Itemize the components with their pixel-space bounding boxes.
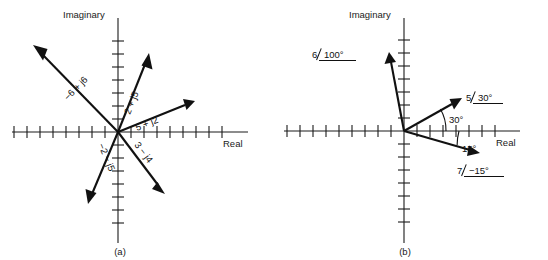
angle-annotation-15: 15°	[462, 143, 477, 154]
vector-label-3-minus-j4: 3 − j4	[132, 140, 155, 165]
vector-label-7-angle-minus15-angle: −15°	[469, 165, 489, 176]
vector-label-6-angle-100-magnitude: 6	[312, 49, 317, 60]
vector-minus2-minus-j5: −2 − j5	[86, 132, 119, 204]
arrowhead-5-plus-j2	[183, 99, 195, 110]
vector-label-5-angle-30-group: 5 30°	[466, 91, 503, 103]
figure-root: Imaginary Real −6 + j6 2 + j5 5 + j2 3 −…	[0, 0, 548, 260]
vector-5-angle-30: 5 30°	[404, 91, 503, 131]
vector-label-2-plus-j5: 2 + j5	[122, 90, 141, 116]
vector-label-5-angle-30-angle: 30°	[478, 92, 493, 103]
arrowhead-6-angle-100	[385, 52, 397, 64]
panel-b-polar-phasor-diagram: Imaginary Real 6 100° 5 30°	[274, 0, 548, 260]
vector-minus6-plus-j6: −6 + j6	[33, 45, 118, 132]
angle-annotation-30: 30°	[449, 114, 464, 125]
arrowhead-3-minus-j4	[152, 182, 165, 194]
angle-arc-15	[457, 131, 459, 145]
imaginary-axis-label-a: Imaginary	[63, 9, 105, 20]
vector-label-5-angle-30-magnitude: 5	[466, 92, 471, 103]
arrowhead-minus2-minus-j5	[86, 189, 97, 204]
panel-b-caption: (b)	[399, 246, 411, 257]
vector-label-6-angle-100-group: 6 100°	[312, 48, 356, 60]
imaginary-axis-label-b: Imaginary	[349, 9, 391, 20]
vector-label-6-angle-100-angle: 100°	[324, 49, 344, 60]
panel-a-caption: (a)	[114, 246, 126, 257]
vector-3-minus-j4: 3 − j4	[118, 132, 165, 194]
vector-7-angle-minus15: 7 −15°	[404, 131, 504, 177]
vector-6-angle-100: 6 100°	[312, 48, 404, 131]
vector-label-minus2-minus-j5: −2 − j5	[96, 142, 117, 173]
real-axis-label-a: Real	[223, 138, 243, 149]
real-axis-label-b: Real	[496, 137, 516, 148]
panel-a-rectangular-phasor-diagram: Imaginary Real −6 + j6 2 + j5 5 + j2 3 −…	[0, 0, 274, 260]
vector-label-7-angle-minus15-group: 7 −15°	[457, 164, 504, 176]
vector-label-7-angle-minus15-magnitude: 7	[457, 165, 462, 176]
vector-label-5-plus-j2: 5 + j2	[134, 114, 160, 133]
